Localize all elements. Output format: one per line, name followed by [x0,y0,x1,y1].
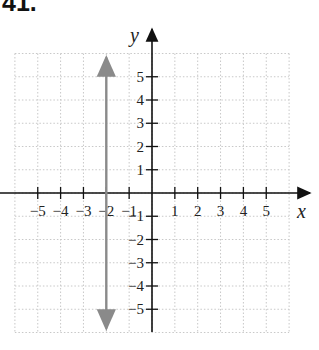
svg-text:5: 5 [137,69,145,85]
svg-text:−2: −2 [128,232,144,248]
x-axis-label: x [296,200,306,222]
svg-text:−5: −5 [128,301,144,317]
svg-text:1: 1 [137,162,145,178]
svg-text:3: 3 [217,203,225,219]
svg-text:1: 1 [171,203,179,219]
svg-text:2: 2 [137,139,145,155]
svg-text:4: 4 [240,203,248,219]
svg-text:−4: −4 [53,203,69,219]
svg-text:−3: −3 [75,203,91,219]
svg-text:−4: −4 [128,278,144,294]
svg-text:−3: −3 [128,255,144,271]
svg-text:5: 5 [263,203,271,219]
svg-text:−5: −5 [30,203,46,219]
coordinate-graph: −5−4−3−2−112345−5−4−3−2−112345 x y [0,0,319,350]
y-axis-label: y [128,24,139,47]
svg-text:−1: −1 [128,208,144,224]
svg-text:2: 2 [194,203,202,219]
svg-text:4: 4 [137,92,145,108]
svg-text:3: 3 [137,115,145,131]
